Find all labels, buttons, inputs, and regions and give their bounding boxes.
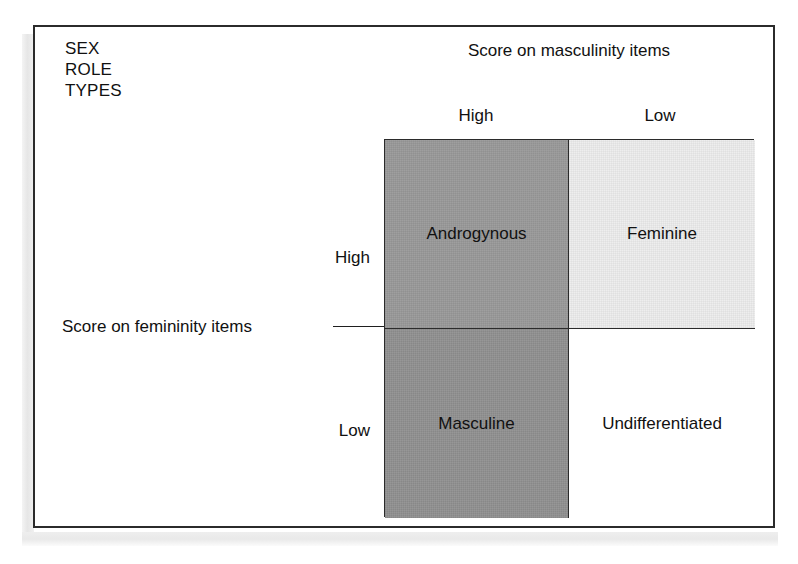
scanned-page-background: SEX ROLE TYPES Score on masculinity item… [0, 0, 798, 564]
quadrant-cell-undifferentiated: Undifferentiated [569, 329, 755, 518]
quadrant-label-undifferentiated: Undifferentiated [602, 414, 722, 434]
quadrant-label-androgynous: Androgynous [426, 224, 526, 244]
quadrant-grid: Androgynous Feminine Masculine Undiffere… [384, 139, 754, 517]
quadrant-label-feminine: Feminine [627, 224, 697, 244]
figure-corner-title: SEX ROLE TYPES [65, 38, 122, 101]
quadrant-cell-masculine: Masculine [385, 329, 569, 518]
column-label-high: High [384, 106, 568, 126]
row-axis-leader-line [333, 326, 386, 327]
scan-shadow-bottom [22, 532, 778, 546]
quadrant-cell-feminine: Feminine [569, 140, 755, 329]
row-axis-caption: Score on femininity items [62, 317, 252, 337]
figure-frame: SEX ROLE TYPES Score on masculinity item… [33, 25, 775, 528]
row-label-low: Low [265, 421, 370, 441]
column-label-low: Low [568, 106, 752, 126]
quadrant-cell-androgynous: Androgynous [385, 140, 569, 329]
row-label-high: High [265, 248, 370, 268]
quadrant-label-masculine: Masculine [438, 414, 515, 434]
column-axis-caption: Score on masculinity items [384, 40, 754, 62]
